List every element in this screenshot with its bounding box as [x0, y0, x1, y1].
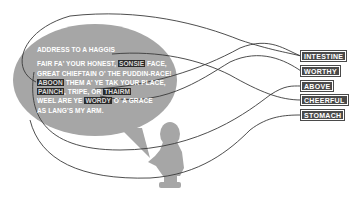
poem-text-segment: FAIR FA' YOUR HONEST,: [37, 60, 118, 67]
poem-text-segment: , TRIPE, OR: [64, 88, 103, 95]
poem-text-segment: FACE,: [145, 60, 167, 67]
glossary-label-intestine: INTESTINE: [301, 51, 346, 61]
poem-text-segment: THEM A' YE TAK YOUR PLACE,: [64, 79, 166, 86]
glossary-label-cheerful: CHEERFUL: [301, 95, 348, 105]
poem-line: PAINCH, TRIPE, OR THAIRM: [37, 87, 172, 96]
poem-line: AS LANG'S MY ARM.: [37, 106, 172, 115]
glossary-label-stomach: STOMACH: [301, 110, 344, 120]
poem-text-segment: AS LANG'S MY ARM.: [37, 107, 104, 114]
highlighted-word: PAINCH: [37, 88, 64, 95]
poem-text-segment: WEEL ARE YE: [37, 97, 84, 104]
highlighted-word: SONSIE: [118, 60, 145, 67]
poem-line: ABOON THEM A' YE TAK YOUR PLACE,: [37, 78, 172, 87]
poem-line: WEEL ARE YE WORDY O' A GRACE: [37, 96, 172, 105]
glossary-label-above: ABOVE: [301, 81, 333, 91]
haggis-glossary-diagram: ADDRESS TO A HAGGIS FAIR FA' YOUR HONEST…: [0, 0, 353, 199]
poem-text-segment: GREAT CHIEFTAIN O' THE PUDDIN-RACE!: [37, 70, 172, 77]
highlighted-word: WORDY: [84, 97, 112, 104]
highlighted-word: THAIRM: [103, 88, 131, 95]
glossary-label-worthy: WORTHY: [301, 66, 340, 76]
poem-text-segment: O' A GRACE: [112, 97, 153, 104]
poem-text: ADDRESS TO A HAGGIS FAIR FA' YOUR HONEST…: [37, 45, 172, 115]
poem-line: GREAT CHIEFTAIN O' THE PUDDIN-RACE!: [37, 69, 172, 78]
poem-lines: FAIR FA' YOUR HONEST, SONSIE FACE,GREAT …: [37, 59, 172, 115]
poem-line: FAIR FA' YOUR HONEST, SONSIE FACE,: [37, 59, 172, 68]
highlighted-word: ABOON: [37, 79, 64, 86]
poem-title: ADDRESS TO A HAGGIS: [37, 45, 172, 54]
